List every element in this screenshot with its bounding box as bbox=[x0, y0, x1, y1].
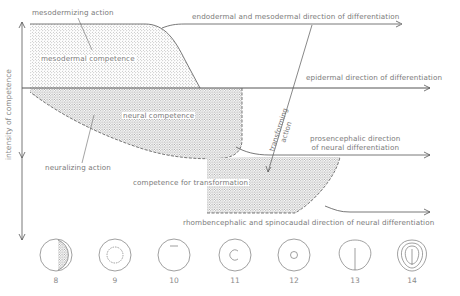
stage-11-embryo bbox=[219, 239, 251, 271]
stage-13-label: 13 bbox=[345, 276, 365, 285]
rhombencephalic-direction-label: rhombencephalic and spinocaudal directio… bbox=[183, 219, 434, 226]
stage-10-embryo bbox=[158, 239, 190, 271]
stage-9-label: 9 bbox=[105, 276, 125, 285]
stage-11-label: 11 bbox=[225, 276, 245, 285]
stage-10-label: 10 bbox=[164, 276, 184, 285]
stage-8-embryo bbox=[40, 239, 72, 271]
epidermal-direction-label: epidermal direction of differentiation bbox=[306, 74, 442, 81]
mesodermal-competence-label: mesodermal competence bbox=[40, 55, 136, 62]
stage-12-label: 12 bbox=[284, 276, 304, 285]
mesodermizing-action-label: mesodermizing action bbox=[32, 9, 114, 16]
prosencephalic-direction-label: prosencephalic direction of neural diffe… bbox=[310, 134, 401, 153]
stage-14-embryo bbox=[398, 240, 427, 271]
endo-meso-direction-label: endodermal and mesodermal direction of d… bbox=[192, 13, 400, 20]
y-axis-label: intensity of competence bbox=[4, 69, 13, 160]
stage-9-embryo bbox=[99, 239, 131, 271]
stage-13-embryo bbox=[339, 240, 371, 270]
neural-competence-label: neural competence bbox=[122, 112, 195, 119]
stage-12-embryo bbox=[278, 239, 310, 271]
stage-14-label: 14 bbox=[402, 276, 422, 285]
transformation-competence-label: competence for transformation bbox=[132, 179, 249, 186]
neuralizing-action-label: neuralizing action bbox=[45, 164, 111, 171]
neural-competence-region bbox=[30, 88, 242, 159]
stage-8-label: 8 bbox=[46, 276, 66, 285]
